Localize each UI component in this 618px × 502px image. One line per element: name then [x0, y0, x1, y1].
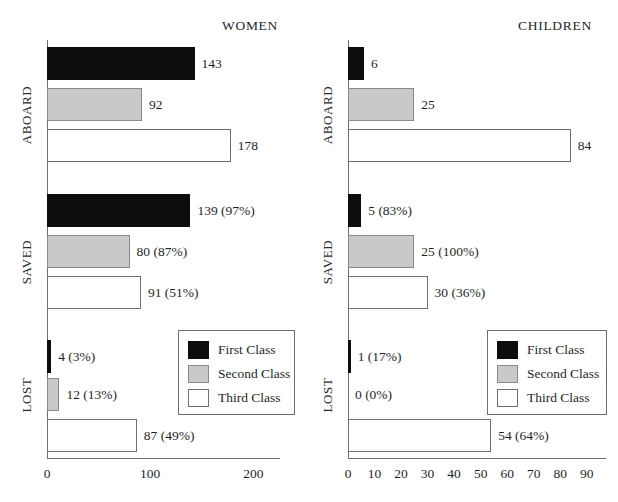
- group-label-children-saved: SAVED: [320, 214, 336, 310]
- legend-children: First ClassSecond ClassThird Class: [487, 330, 607, 415]
- x-tick-women-0: 0: [32, 467, 62, 481]
- bar-children-lost-first: [348, 340, 351, 373]
- legend-label-first: First Class: [218, 340, 275, 359]
- x-tick-women-200: 200: [238, 467, 268, 481]
- bar-women-lost-second: [47, 378, 59, 411]
- bar-children-aboard-first: [348, 47, 364, 80]
- bar-value-label-children-lost-first: 1 (17%): [358, 350, 402, 364]
- legend-swatch-second-icon: [497, 365, 518, 383]
- bar-women-aboard-second: [47, 88, 142, 121]
- bar-value-label-children-aboard-second: 25: [421, 98, 435, 112]
- legend-row-children-third[interactable]: Third Class: [497, 387, 605, 409]
- x-tick-children-70: 70: [519, 467, 549, 481]
- group-label-women-saved: SAVED: [19, 214, 35, 310]
- bar-value-label-children-aboard-first: 6: [371, 57, 378, 71]
- legend-row-women-third[interactable]: Third Class: [188, 387, 293, 409]
- panel-women: WOMENABOARD14392178SAVED139 (97%)80 (87%…: [0, 0, 309, 502]
- legend-swatch-first-icon: [497, 341, 518, 359]
- x-axis-line-women: [47, 458, 280, 459]
- x-tick-children-30: 30: [413, 467, 443, 481]
- legend-label-third: Third Class: [527, 388, 590, 407]
- legend-row-women-first[interactable]: First Class: [188, 339, 293, 361]
- bar-women-aboard-first: [47, 47, 195, 80]
- x-tick-women-100: 100: [135, 467, 165, 481]
- bar-value-label-women-saved-second: 80 (87%): [137, 245, 188, 259]
- bar-value-label-children-saved-third: 30 (36%): [435, 286, 486, 300]
- bar-value-label-women-lost-first: 4 (3%): [58, 350, 95, 364]
- bar-women-lost-third: [47, 419, 137, 452]
- bar-value-label-children-aboard-third: 84: [578, 139, 592, 153]
- legend-swatch-third-icon: [497, 389, 518, 407]
- bar-value-label-women-lost-third: 87 (49%): [144, 429, 195, 443]
- x-tick-children-50: 50: [466, 467, 496, 481]
- bar-children-lost-third: [348, 419, 491, 452]
- bar-women-lost-first: [47, 340, 51, 373]
- legend-row-women-second[interactable]: Second Class: [188, 363, 293, 385]
- legend-label-second: Second Class: [527, 364, 599, 383]
- bar-value-label-women-lost-second: 12 (13%): [66, 388, 117, 402]
- panel-title-children: CHILDREN: [495, 18, 615, 34]
- bar-children-saved-second: [348, 235, 414, 268]
- bar-value-label-women-aboard-first: 143: [202, 57, 222, 71]
- bar-value-label-children-saved-second: 25 (100%): [421, 245, 478, 259]
- group-label-children-lost: LOST: [320, 347, 336, 443]
- bar-children-saved-first: [348, 194, 361, 227]
- bar-children-aboard-third: [348, 129, 571, 162]
- legend-swatch-first-icon: [188, 341, 209, 359]
- bar-children-aboard-second: [348, 88, 414, 121]
- bar-value-label-children-lost-second: 0 (0%): [355, 388, 392, 402]
- panel-children: CHILDRENABOARD62584SAVED5 (83%)25 (100%)…: [309, 0, 618, 502]
- x-tick-children-60: 60: [492, 467, 522, 481]
- x-tick-children-20: 20: [386, 467, 416, 481]
- legend-row-children-second[interactable]: Second Class: [497, 363, 605, 385]
- legend-women: First ClassSecond ClassThird Class: [178, 330, 295, 415]
- titanic-survival-chart: WOMENABOARD14392178SAVED139 (97%)80 (87%…: [0, 0, 618, 502]
- bar-children-saved-third: [348, 276, 428, 309]
- legend-swatch-third-icon: [188, 389, 209, 407]
- legend-label-third: Third Class: [218, 388, 281, 407]
- bar-women-saved-first: [47, 194, 190, 227]
- bar-value-label-women-saved-third: 91 (51%): [148, 286, 199, 300]
- x-tick-children-0: 0: [333, 467, 363, 481]
- bar-value-label-women-aboard-third: 178: [238, 139, 258, 153]
- x-tick-children-10: 10: [360, 467, 390, 481]
- bar-value-label-women-aboard-second: 92: [149, 98, 163, 112]
- x-tick-children-90: 90: [572, 467, 602, 481]
- panel-title-women: WOMEN: [195, 18, 305, 34]
- bar-value-label-children-lost-third: 54 (64%): [498, 429, 549, 443]
- legend-row-children-first[interactable]: First Class: [497, 339, 605, 361]
- group-label-women-aboard: ABOARD: [19, 67, 35, 163]
- bar-women-saved-second: [47, 235, 130, 268]
- bar-women-saved-third: [47, 276, 141, 309]
- legend-swatch-second-icon: [188, 365, 209, 383]
- x-tick-children-80: 80: [545, 467, 575, 481]
- group-label-women-lost: LOST: [19, 347, 35, 443]
- legend-label-first: First Class: [527, 340, 584, 359]
- bar-women-aboard-third: [47, 129, 231, 162]
- legend-label-second: Second Class: [218, 364, 290, 383]
- x-axis-line-children: [348, 458, 606, 459]
- bar-value-label-children-saved-first: 5 (83%): [368, 204, 412, 218]
- bar-value-label-women-saved-first: 139 (97%): [197, 204, 254, 218]
- x-tick-children-40: 40: [439, 467, 469, 481]
- group-label-children-aboard: ABOARD: [320, 67, 336, 163]
